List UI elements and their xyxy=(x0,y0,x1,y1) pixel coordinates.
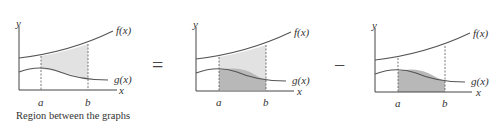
panel-area-under-g: y x a b f(x) g(x) xyxy=(371,19,489,109)
b-label: b xyxy=(85,96,91,108)
shaded-under-g xyxy=(398,69,445,92)
f-label: f(x) xyxy=(116,24,132,37)
a-label: a xyxy=(216,96,222,108)
a-label: a xyxy=(395,97,401,109)
g-label: g(x) xyxy=(471,75,489,88)
f-curve xyxy=(375,33,470,60)
equals-sign: = xyxy=(152,54,163,76)
y-axis-label: y xyxy=(371,19,377,31)
g-label: g(x) xyxy=(292,74,310,87)
minus-sign: − xyxy=(334,54,345,76)
a-label: a xyxy=(38,96,44,108)
y-axis-label: y xyxy=(192,18,198,30)
x-axis-label: x xyxy=(475,86,481,98)
g-label: g(x) xyxy=(114,73,132,86)
panel-area-under-f: y x a b f(x) g(x) xyxy=(192,18,310,108)
f-label: f(x) xyxy=(294,26,310,39)
panel-region-between: y x a b f(x) g(x) Region between the gra… xyxy=(15,17,132,121)
x-axis-label: x xyxy=(118,84,124,96)
area-between-curves-diagram: y x a b f(x) g(x) Region between the gra… xyxy=(0,0,499,124)
caption: Region between the graphs xyxy=(16,110,130,121)
f-label: f(x) xyxy=(473,27,489,40)
x-axis-label: x xyxy=(296,85,302,97)
b-label: b xyxy=(442,97,448,109)
y-axis-label: y xyxy=(15,17,21,29)
b-label: b xyxy=(263,96,269,108)
